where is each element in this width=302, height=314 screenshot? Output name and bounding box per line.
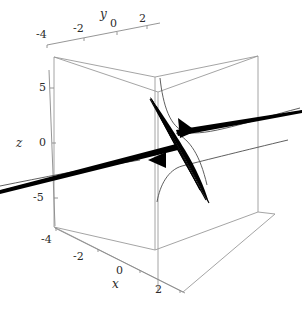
cusp-surface — [0, 97, 302, 203]
x-tick-label--4: -4 — [41, 234, 52, 245]
x-tick-label-0: 0 — [116, 265, 123, 276]
box-edge-bottom-right-vertical — [258, 212, 275, 214]
y-tick-label--2: -2 — [73, 23, 84, 34]
box-bottom-front-right — [183, 214, 275, 292]
ruling-5 — [178, 111, 302, 133]
y-axis-line — [47, 23, 160, 45]
y-tick-label-2: 2 — [139, 13, 146, 24]
z-tick-label--5: -5 — [33, 192, 44, 203]
z-tick-label-0: 0 — [39, 137, 46, 148]
contour-curve-tail-right — [176, 133, 207, 185]
axis-label-y: y — [100, 8, 107, 20]
axis-label-x: x — [112, 278, 119, 290]
box-bottom-back-right — [155, 212, 258, 250]
axis-label-z: z — [16, 137, 22, 149]
box-top-back-right — [155, 56, 258, 77]
box-top-front-right — [158, 56, 258, 92]
z-tick-label-5: 5 — [39, 82, 46, 93]
bounding-box — [54, 56, 275, 292]
y-tick-label-0: 0 — [110, 18, 117, 29]
x-tick-label--2: -2 — [73, 251, 84, 262]
y-tick-label--4: -4 — [36, 29, 47, 40]
x-tick-label-2: 2 — [155, 284, 162, 295]
ruling-4 — [0, 147, 178, 191]
plot-canvas — [0, 0, 302, 314]
box-bottom-back-left — [54, 227, 155, 250]
